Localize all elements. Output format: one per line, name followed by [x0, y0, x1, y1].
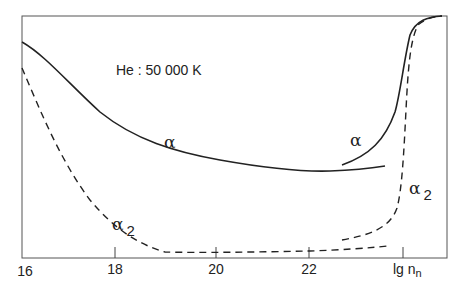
alpha-label-left: α: [164, 132, 175, 152]
alpha2-label-right: α2: [409, 178, 432, 198]
chart-title: He : 50 000 K: [116, 62, 202, 78]
x-axis-label-subscript: n: [416, 267, 422, 279]
alpha-label-right: α: [350, 130, 361, 150]
x-tick-20: 20: [208, 261, 224, 277]
x-tick-16: 16: [17, 263, 33, 279]
alpha2-curve-right: [342, 16, 442, 240]
x-tick-18: 18: [107, 261, 123, 277]
alpha2-curve-left: [22, 68, 388, 252]
alpha2-label-left: α2: [112, 214, 135, 234]
x-axis-label-text: lg n: [393, 261, 416, 277]
alpha2-greek: α: [409, 178, 420, 198]
chart-canvas: [0, 0, 466, 290]
alpha2-greek: α: [112, 214, 123, 234]
alpha2-subscript: 2: [423, 186, 431, 203]
plot-frame: [22, 16, 447, 258]
x-axis-label: lg nn: [393, 261, 422, 277]
alpha-curve-left: [22, 42, 385, 171]
x-tick-22: 22: [301, 261, 317, 277]
alpha2-subscript: 2: [126, 222, 134, 239]
